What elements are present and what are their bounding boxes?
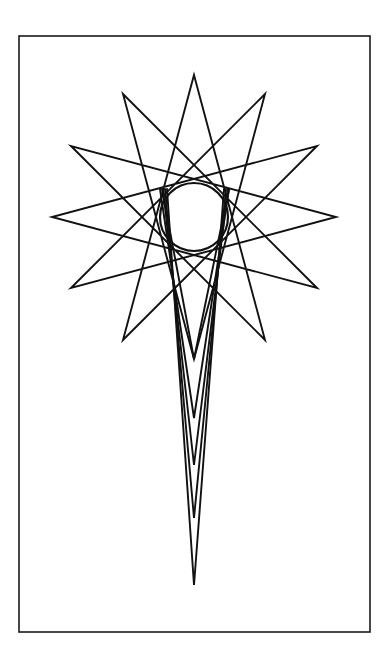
star-burst-illustration: [0, 0, 388, 663]
drawing-canvas: [0, 0, 388, 663]
page-background: [0, 0, 388, 663]
